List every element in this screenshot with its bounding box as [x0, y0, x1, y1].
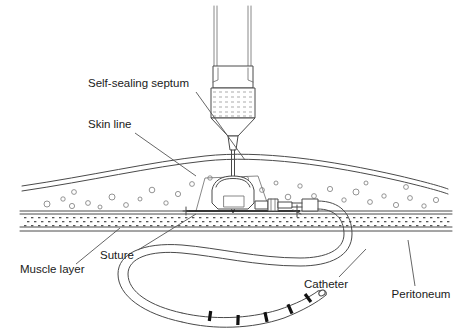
muscle-dot	[290, 225, 292, 226]
fat-cell	[433, 197, 438, 202]
catheter-marker-band	[263, 312, 268, 322]
muscle-dot	[363, 221, 365, 222]
leader-line-catheter	[339, 249, 366, 277]
muscle-stipple	[24, 217, 449, 226]
muscle-band	[20, 214, 452, 227]
fat-cell	[408, 196, 413, 201]
muscle-dot	[69, 221, 71, 222]
muscle-dot	[143, 217, 145, 218]
muscle-dot	[227, 217, 229, 218]
muscle-dot	[38, 225, 40, 226]
label-catheter: Catheter	[304, 278, 348, 290]
label-muscle-layer: Muscle layer	[20, 263, 85, 275]
muscle-dot	[356, 221, 358, 222]
muscle-dot	[335, 221, 337, 222]
muscle-dot	[370, 221, 372, 222]
muscle-dot	[80, 225, 82, 226]
fat-cell	[149, 187, 155, 193]
muscle-dot	[125, 221, 127, 222]
muscle-dot	[188, 221, 190, 222]
muscle-dot	[143, 225, 145, 226]
muscle-dot	[437, 225, 439, 226]
muscle-dot	[66, 217, 68, 218]
muscle-dot	[409, 225, 411, 226]
catheter-connector	[255, 199, 292, 211]
muscle-dot	[38, 217, 40, 218]
muscle-dot	[402, 225, 404, 226]
muscle-dot	[45, 217, 47, 218]
muscle-dot	[185, 225, 187, 226]
muscle-dot	[409, 217, 411, 218]
muscle-dot	[122, 217, 124, 218]
muscle-dot	[132, 221, 134, 222]
muscle-dot	[31, 225, 33, 226]
muscle-dot	[241, 217, 243, 218]
muscle-dot	[48, 221, 50, 222]
muscle-dot	[419, 221, 421, 222]
muscle-dot	[216, 221, 218, 222]
muscle-dot	[290, 217, 292, 218]
fat-cell	[98, 205, 102, 209]
muscle-dot	[258, 221, 260, 222]
fat-cell	[190, 182, 195, 187]
muscle-dot	[94, 225, 96, 226]
muscle-dot	[398, 221, 400, 222]
muscle-dot	[34, 221, 36, 222]
fat-cell	[164, 201, 168, 205]
muscle-dot	[269, 217, 271, 218]
muscle-dot	[430, 225, 432, 226]
muscle-dot	[405, 221, 407, 222]
muscle-dot	[199, 225, 201, 226]
label-peritoneum: Peritoneum	[392, 288, 451, 300]
fat-cell	[422, 204, 426, 208]
muscle-dot	[87, 225, 89, 226]
muscle-dot	[220, 217, 222, 218]
muscle-dot	[146, 221, 148, 222]
muscle-dot	[171, 217, 173, 218]
fat-cell	[175, 191, 180, 196]
muscle-dot	[199, 217, 201, 218]
muscle-dot	[234, 225, 236, 226]
muscle-dot	[255, 225, 257, 226]
label-self-sealing-septum: Self-sealing septum	[88, 77, 189, 89]
muscle-dot	[426, 221, 428, 222]
muscle-dot	[262, 225, 264, 226]
muscle-dot	[209, 221, 211, 222]
catheter-marker-band	[287, 304, 294, 314]
muscle-dot	[185, 217, 187, 218]
muscle-dot	[139, 221, 141, 222]
muscle-dot	[157, 217, 159, 218]
syringe-grip	[213, 66, 253, 88]
muscle-dot	[339, 225, 341, 226]
muscle-dot	[31, 217, 33, 218]
muscle-dot	[192, 217, 194, 218]
muscle-dot	[167, 221, 169, 222]
muscle-dot	[332, 225, 334, 226]
muscle-dot	[150, 217, 152, 218]
muscle-dot	[55, 221, 57, 222]
muscle-dot	[353, 225, 355, 226]
muscle-dot	[24, 217, 26, 218]
muscle-dot	[412, 221, 414, 222]
muscle-dot	[87, 217, 89, 218]
fat-cell	[86, 201, 91, 206]
muscle-dot	[251, 221, 253, 222]
fat-cell	[353, 189, 359, 195]
muscle-dot	[241, 225, 243, 226]
leader-line-peritoneum	[408, 240, 415, 286]
muscle-dot	[332, 217, 334, 218]
muscle-dot	[433, 221, 435, 222]
muscle-dot	[353, 217, 355, 218]
muscle-dot	[164, 217, 166, 218]
muscle-dot	[374, 225, 376, 226]
fat-cell	[274, 181, 278, 185]
muscle-dot	[160, 221, 162, 222]
muscle-dot	[108, 225, 110, 226]
muscle-dot	[122, 225, 124, 226]
fat-cell	[368, 200, 373, 205]
fat-cell	[404, 185, 409, 190]
port-diagram-canvas: Self-sealing septumSkin lineSutureMuscle…	[0, 0, 470, 331]
muscle-dot	[136, 217, 138, 218]
muscle-dot	[213, 217, 215, 218]
muscle-dot	[223, 221, 225, 222]
